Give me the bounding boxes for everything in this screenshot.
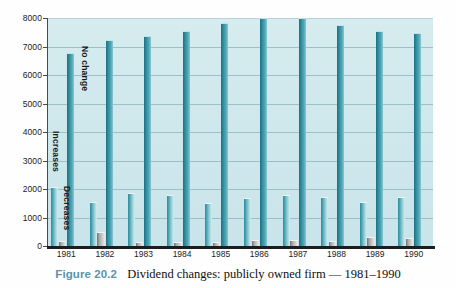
bar-no-change[interactable] xyxy=(106,40,113,246)
x-axis: 1981198219831984198519861987198819891990 xyxy=(47,249,433,265)
bar-increases[interactable] xyxy=(128,193,135,246)
x-axis-tick-label: 1986 xyxy=(250,249,269,259)
bar-no-change[interactable] xyxy=(260,18,267,246)
bar-group xyxy=(86,18,125,246)
bar-increases[interactable] xyxy=(205,203,212,246)
bar-no-change[interactable] xyxy=(414,33,421,246)
bar-no-change[interactable] xyxy=(337,25,344,246)
bar-increases[interactable] xyxy=(51,187,58,246)
x-axis-tick-label: 1987 xyxy=(288,249,307,259)
x-axis-tick-label: 1985 xyxy=(211,249,230,259)
bar-no-change[interactable] xyxy=(183,31,190,246)
bar-group xyxy=(163,18,202,246)
x-axis-tick-label: 1988 xyxy=(327,249,346,259)
y-axis-tick-label: 2000 xyxy=(23,184,42,194)
bar-no-change[interactable] xyxy=(299,18,306,246)
bar-group xyxy=(240,18,279,246)
x-axis-tick-label: 1983 xyxy=(134,249,153,259)
bar-group xyxy=(279,18,318,246)
x-axis-tick-label: 1981 xyxy=(57,249,76,259)
bars-layer xyxy=(47,18,433,246)
bar-group xyxy=(124,18,163,246)
y-axis: 010002000300040005000600070008000 xyxy=(0,0,47,288)
bar-decreases[interactable] xyxy=(406,238,414,246)
figure-container: 010002000300040005000600070008000 Increa… xyxy=(0,0,456,288)
x-axis-tick-label: 1982 xyxy=(95,249,114,259)
bar-increases[interactable] xyxy=(244,198,251,246)
x-axis-tick-label: 1989 xyxy=(366,249,385,259)
bar-no-change[interactable] xyxy=(221,23,228,246)
bar-group xyxy=(394,18,433,246)
series-label-no-change: No change xyxy=(80,46,90,91)
bar-increases[interactable] xyxy=(398,197,405,246)
bar-no-change[interactable] xyxy=(144,36,151,246)
y-axis-tick-label: 7000 xyxy=(23,42,42,52)
bar-decreases[interactable] xyxy=(367,237,375,246)
y-axis-tick-label: 3000 xyxy=(23,156,42,166)
y-axis-tick-label: 6000 xyxy=(23,70,42,80)
bar-group xyxy=(201,18,240,246)
bar-increases[interactable] xyxy=(321,197,328,246)
bar-group xyxy=(317,18,356,246)
y-axis-tick-label: 8000 xyxy=(23,13,42,23)
bar-decreases[interactable] xyxy=(97,232,105,246)
y-axis-tick-label: 1000 xyxy=(23,213,42,223)
figure-number: Figure 20.2 xyxy=(55,268,117,280)
figure-caption-text: Dividend changes: publicly owned firm — … xyxy=(127,267,401,281)
series-label-increases: Increases xyxy=(51,131,61,172)
bar-increases[interactable] xyxy=(283,195,290,246)
x-axis-tick-label: 1984 xyxy=(173,249,192,259)
bar-increases[interactable] xyxy=(90,202,97,246)
x-axis-tick-label: 1990 xyxy=(404,249,423,259)
bar-increases[interactable] xyxy=(360,202,367,246)
y-axis-tick-label: 4000 xyxy=(23,127,42,137)
bar-group xyxy=(356,18,395,246)
y-axis-tick-label: 5000 xyxy=(23,99,42,109)
y-axis-tick-label: 0 xyxy=(37,241,42,251)
bar-increases[interactable] xyxy=(167,195,174,246)
bar-no-change[interactable] xyxy=(376,31,383,246)
figure-caption: Figure 20.2Dividend changes: publicly ow… xyxy=(0,264,456,286)
series-label-decreases: Decreases xyxy=(62,186,72,230)
